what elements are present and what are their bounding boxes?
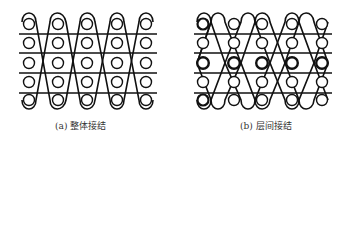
caption-a: (a) 整体接结: [55, 119, 106, 132]
caption-b: (b) 层间接结: [240, 119, 292, 132]
